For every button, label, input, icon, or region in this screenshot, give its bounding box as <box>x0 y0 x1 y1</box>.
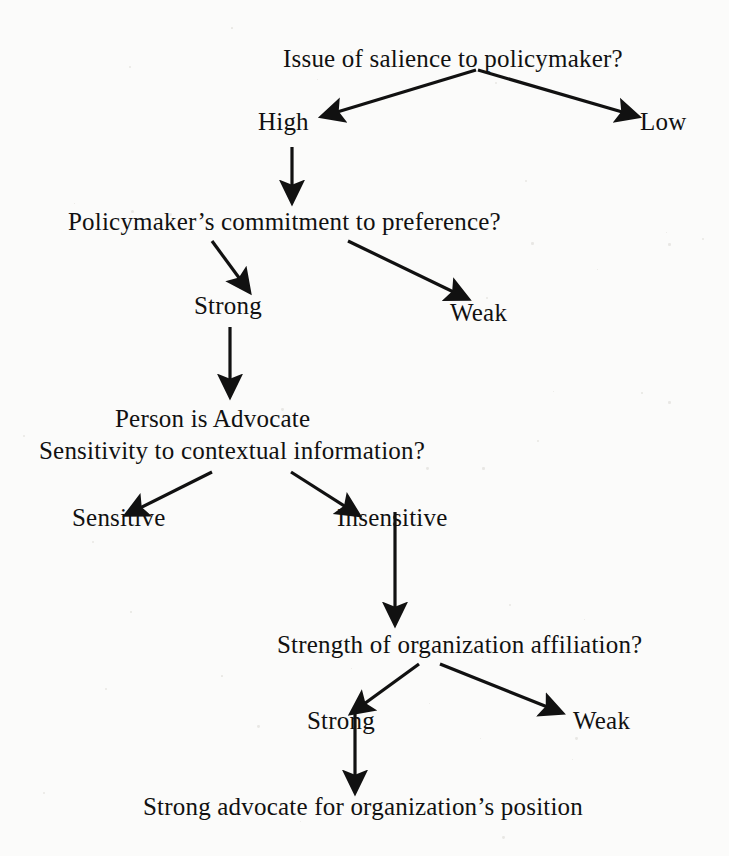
option-weak-commitment: Weak <box>450 300 507 325</box>
option-strong-commitment: Strong <box>194 293 262 318</box>
paper-speck <box>281 408 284 411</box>
paper-speck <box>429 703 430 704</box>
option-insensitive: Insensitive <box>337 505 448 530</box>
paper-speck <box>553 391 554 392</box>
paper-speck <box>482 467 485 470</box>
decision-tree-diagram: Issue of salience to policymaker? High L… <box>0 0 729 856</box>
paper-speck <box>575 737 578 740</box>
paper-speck <box>105 688 107 690</box>
paper-speck <box>317 79 318 80</box>
paper-speck <box>351 668 352 669</box>
question-issue-salience: Issue of salience to policymaker? <box>283 46 623 71</box>
paper-speck <box>509 604 511 606</box>
paper-speck <box>480 738 481 739</box>
paper-speck <box>129 66 131 68</box>
paper-speck <box>23 435 25 437</box>
edge-arrow <box>348 241 466 298</box>
paper-speck <box>531 242 534 245</box>
paper-speck <box>257 810 259 812</box>
edge-arrow <box>324 70 476 116</box>
paper-speck <box>702 238 704 240</box>
outcome-strong-advocate: Strong advocate for organization’s posit… <box>143 794 583 819</box>
paper-speck <box>666 232 667 233</box>
paper-speck <box>597 269 598 270</box>
paper-speck <box>231 27 233 29</box>
option-low: Low <box>640 109 686 134</box>
paper-speck <box>584 619 585 620</box>
paper-speck <box>502 836 505 839</box>
option-strong-affiliation: Strong <box>307 708 375 733</box>
edge-arrow <box>440 664 560 712</box>
option-sensitive: Sensitive <box>72 505 165 530</box>
paper-speck <box>525 180 527 182</box>
paper-speck <box>572 759 573 760</box>
paper-speck <box>257 725 260 728</box>
edge-arrow <box>478 70 636 116</box>
paper-speck <box>668 243 671 246</box>
paper-speck <box>43 792 45 794</box>
paper-speck <box>92 541 94 543</box>
paper-speck <box>641 392 643 394</box>
paper-speck <box>537 440 539 442</box>
option-weak-affiliation: Weak <box>573 708 630 733</box>
edge-arrow <box>353 664 419 712</box>
paper-speck <box>221 675 223 677</box>
edge-arrow <box>212 241 248 290</box>
question-sensitivity-contextual-information: Sensitivity to contextual information? <box>39 438 425 463</box>
option-high: High <box>258 109 309 134</box>
paper-speck <box>169 213 172 216</box>
paper-speck <box>350 51 352 53</box>
paper-speck <box>130 611 132 613</box>
question-strength-organization-affiliation: Strength of organization affiliation? <box>277 632 642 657</box>
paper-speck <box>495 82 497 84</box>
paper-speck <box>482 658 483 659</box>
paper-speck <box>668 401 671 404</box>
paper-speck <box>74 203 75 204</box>
paper-speck <box>426 467 429 470</box>
paper-speck <box>300 821 301 822</box>
